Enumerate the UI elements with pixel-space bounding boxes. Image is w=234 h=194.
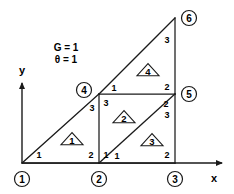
parameter-labels-group: G = 1θ = 1: [54, 42, 79, 65]
elem4-local-2: 2: [164, 82, 169, 92]
x-axis-label: x: [211, 172, 218, 184]
elem4-local-3: 3: [164, 35, 169, 45]
element-number-2: 2: [121, 113, 126, 124]
mesh-figure: xy 1234 123123123123 123456 G = 1θ = 1: [0, 0, 234, 194]
elem1-local-1: 1: [36, 150, 41, 160]
param-label-conductance: G = 1: [54, 42, 79, 53]
element-number-3: 3: [149, 136, 154, 147]
elem3-local-1: 1: [114, 151, 119, 161]
node-number-5: 5: [186, 89, 192, 100]
y-axis-label: y: [19, 64, 26, 76]
node-number-4: 4: [81, 85, 87, 96]
element-markers-group: 1234: [61, 64, 163, 148]
node-number-3: 3: [172, 174, 178, 185]
elem3-local-2: 2: [164, 150, 169, 160]
node-number-6: 6: [186, 13, 192, 24]
elem1-local-2: 2: [88, 150, 93, 160]
elem3-local-3: 3: [164, 110, 169, 120]
elem1-local-3: 3: [89, 103, 94, 113]
elem2-local-1: 1: [103, 150, 108, 160]
element-number-4: 4: [145, 66, 151, 77]
elem2-local-2: 2: [163, 99, 168, 109]
node-number-2: 2: [96, 174, 102, 185]
elem4-local-1: 1: [111, 83, 116, 93]
edge-1-4: [22, 94, 99, 163]
param-label-theta: θ = 1: [55, 54, 78, 65]
elem2-local-3: 3: [103, 98, 108, 108]
node-number-1: 1: [19, 174, 25, 185]
mesh-canvas: xy 1234 123123123123 123456 G = 1θ = 1: [0, 0, 234, 194]
element-number-1: 1: [69, 135, 75, 146]
